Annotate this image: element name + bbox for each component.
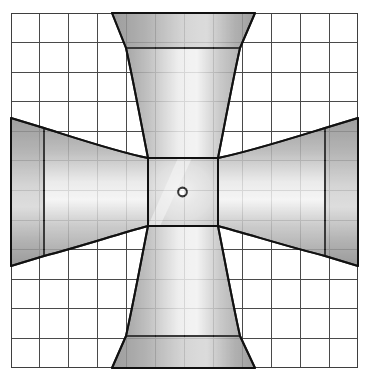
center-bore-hole <box>177 187 188 198</box>
arm-left-flange <box>11 118 44 266</box>
bore-hole <box>179 189 186 196</box>
cruciform-duct-drawing <box>0 0 370 381</box>
arm-right-flange <box>325 118 358 266</box>
arm-bottom-flange <box>112 336 255 368</box>
arm-top-flange <box>112 13 255 48</box>
drawing-stage <box>0 0 370 381</box>
